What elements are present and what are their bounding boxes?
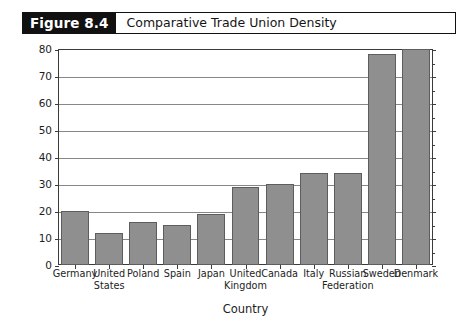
y-axis-tick-labels: 01020304050607080 [22,49,52,265]
y-axis-tick-mark-right [432,104,436,105]
y-axis-tick-mark-right [432,212,436,213]
y-axis-tick-mark [55,212,59,213]
y-axis-tick-mark [55,77,59,78]
y-axis-tick-mark [55,158,59,159]
figure-header-bar: Figure 8.4 Comparative Trade Union Densi… [22,12,456,34]
y-axis-tick-label: 40 [26,151,52,163]
plot-area [58,49,433,265]
y-axis-tick-mark-right [432,185,436,186]
y-axis-tick-label: 20 [26,205,52,217]
y-axis-tick-mark [55,131,59,132]
gridline [59,158,432,159]
x-axis-title: Country [58,302,433,316]
y-axis-tick-mark [55,266,59,267]
y-axis-tick-label: 10 [26,232,52,244]
y-axis-minor-tick-right [432,64,435,65]
y-axis-tick-mark [55,239,59,240]
x-axis-tick-label-line: Kingdom [218,280,273,292]
y-axis-tick-mark [55,104,59,105]
gridline [59,131,432,132]
y-axis-tick-mark-right [432,131,436,132]
y-axis-tick-label: 30 [26,178,52,190]
figure-number-badge: Figure 8.4 [23,13,116,33]
y-axis-tick-label: 50 [26,124,52,136]
figure-title: Comparative Trade Union Density [116,13,337,33]
x-axis-tick-label-line: Denmark [389,268,444,280]
y-axis-tick-mark-right [432,239,436,240]
gridline [59,185,432,186]
bar-chart: 01020304050607080 Union Density* Germany… [0,40,472,327]
gridline [59,212,432,213]
y-axis-minor-tick-right [432,226,435,227]
y-axis-tick-label: 80 [26,43,52,55]
y-axis-tick-mark-right [432,77,436,78]
y-axis-tick-mark [55,185,59,186]
y-axis-minor-tick-right [432,172,435,173]
y-axis-tick-mark-right [432,50,436,51]
y-axis-tick-mark-right [432,158,436,159]
y-axis-tick-mark [55,50,59,51]
y-axis-minor-tick-right [432,91,435,92]
y-axis-minor-tick-right [432,118,435,119]
x-axis-tick-label-line: Federation [321,280,376,292]
x-axis-tick-label: Denmark [389,268,444,280]
y-axis-minor-tick-right [432,199,435,200]
y-axis-minor-tick-right [432,253,435,254]
y-axis-minor-tick-right [432,145,435,146]
gridline [59,239,432,240]
gridline [59,77,432,78]
gridline [59,104,432,105]
x-axis-tick-label-line: States [82,280,137,292]
y-axis-tick-label: 60 [26,97,52,109]
y-axis-tick-label: 70 [26,70,52,82]
y-axis-tick-mark-right [432,266,436,267]
